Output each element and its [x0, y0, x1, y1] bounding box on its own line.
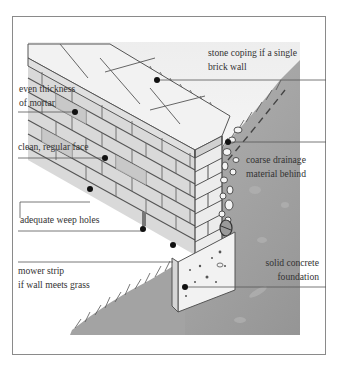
label-drainage: coarse drainage material behind	[246, 153, 306, 181]
label-mortar-line1: even thickness	[19, 82, 75, 96]
label-foundation-line1: solid concrete	[240, 256, 319, 270]
label-stone-coping-line1: stone coping if a single	[208, 46, 297, 60]
label-mower-strip-line1: mower strip	[18, 264, 90, 278]
label-foundation-line2: foundation	[240, 270, 319, 284]
weep-hole-pipe	[142, 212, 146, 226]
label-mortar: even thickness of mortar	[19, 82, 75, 110]
label-mortar-line2: of mortar	[19, 96, 75, 110]
label-weep-holes-line1: adequate weep holes	[20, 213, 99, 227]
label-mower-strip-line2: if wall meets grass	[18, 278, 90, 292]
label-drainage-line2: material behind	[246, 167, 306, 181]
label-clean-face: clean, regular face	[18, 140, 89, 154]
label-stone-coping: stone coping if a single brick wall	[208, 46, 297, 74]
label-weep-holes: adequate weep holes	[20, 213, 99, 227]
label-mower-strip: mower strip if wall meets grass	[18, 264, 90, 292]
label-foundation: solid concrete foundation	[240, 256, 319, 284]
label-stone-coping-line2: brick wall	[208, 60, 297, 74]
label-drainage-line1: coarse drainage	[246, 153, 306, 167]
label-clean-face-line1: clean, regular face	[18, 140, 89, 154]
